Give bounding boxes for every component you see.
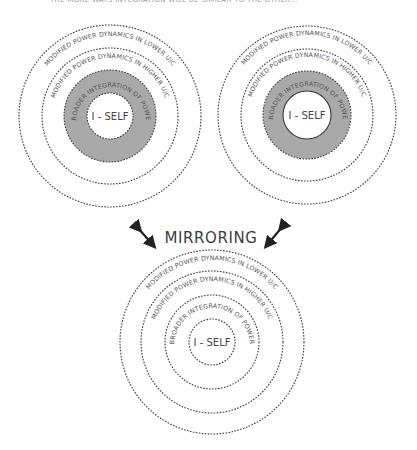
svg-text:MODIFIED POWER DYNAMICS IN LOW: MODIFIED POWER DYNAMICS IN LOWER U/C (43, 30, 178, 67)
left-diagram: MODIFIED POWER DYNAMICS IN LOWER U/C MOD… (0, 0, 201, 207)
left-double-arrow-icon (138, 228, 152, 244)
right-outer-label: MODIFIED POWER DYNAMICS IN LOWER U/C (240, 29, 375, 66)
right-double-arrow-icon (268, 227, 282, 244)
left-core-label: I - SELF (92, 111, 129, 122)
bottom-diagram: MODIFIED POWER DYNAMICS IN LOWER U/C MOD… (120, 250, 304, 434)
bottom-core-label: I - SELF (194, 337, 231, 348)
bottom-outer-label: MODIFIED POWER DYNAMICS IN LOWER U/C (144, 254, 280, 291)
svg-text:MODIFIED POWER DYNAMICS IN LOW: MODIFIED POWER DYNAMICS IN LOWER U/C (240, 29, 375, 66)
bottom-second-label: MODIFIED POWER DYNAMICS IN HIGHER U/C (150, 275, 275, 321)
diagram-canvas: MODIFIED POWER DYNAMICS IN LOWER U/C MOD… (0, 0, 417, 450)
left-outer-label: MODIFIED POWER DYNAMICS IN LOWER U/C (43, 30, 178, 67)
right-diagram: MODIFIED POWER DYNAMICS IN LOWER U/C MOD… (0, 0, 396, 204)
right-core-label: I - SELF (289, 110, 326, 121)
svg-text:MODIFIED POWER DYNAMICS IN LOW: MODIFIED POWER DYNAMICS IN LOWER U/C (144, 254, 280, 291)
svg-text:MODIFIED POWER DYNAMICS IN HIG: MODIFIED POWER DYNAMICS IN HIGHER U/C (150, 275, 275, 321)
mirroring-label: MIRRORING (164, 229, 257, 247)
